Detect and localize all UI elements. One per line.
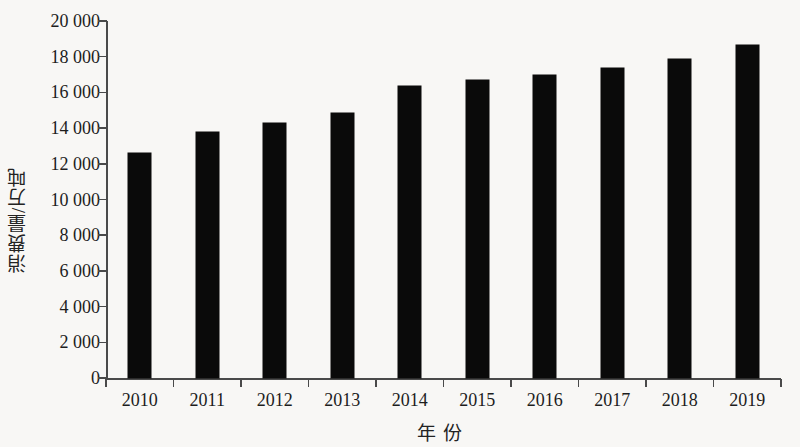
x-axis-tick xyxy=(173,379,175,387)
y-axis-tick-label: 16 000 xyxy=(34,83,100,101)
bar-chart: 消费量/万吨 02 0004 0006 0008 00010 00012 000… xyxy=(0,0,800,447)
bar xyxy=(331,113,354,378)
bar xyxy=(398,86,421,378)
y-axis-tick-label: 6 000 xyxy=(34,262,100,280)
y-axis-tick-label: 18 000 xyxy=(34,48,100,66)
bar xyxy=(196,132,219,378)
y-axis-tick-label: 0 xyxy=(34,369,100,387)
x-axis-tick-label: 2019 xyxy=(707,390,787,410)
x-axis-tick xyxy=(240,379,242,387)
x-axis-tick xyxy=(645,379,647,387)
y-axis-tick-label: 4 000 xyxy=(34,298,100,316)
y-axis-tick-label: 14 000 xyxy=(34,119,100,137)
bar xyxy=(533,75,556,378)
x-axis-title: 年 份 xyxy=(0,418,800,445)
y-axis-title: 消费量/万吨 xyxy=(2,100,34,340)
x-axis-tick xyxy=(375,379,377,387)
x-axis-tick xyxy=(713,379,715,387)
y-axis-tick-label: 12 000 xyxy=(34,155,100,173)
x-axis-title-text: 年 份 xyxy=(417,418,463,445)
bar xyxy=(668,59,691,379)
y-axis-tick-labels: 02 0004 0006 0008 00010 00012 00014 0001… xyxy=(34,0,100,447)
x-axis-tick xyxy=(510,379,512,387)
y-axis-tick-label: 10 000 xyxy=(34,191,100,209)
y-axis-tick-label: 20 000 xyxy=(34,12,100,30)
y-axis-tick-label: 8 000 xyxy=(34,226,100,244)
bar xyxy=(736,45,759,378)
y-axis-tick-label: 2 000 xyxy=(34,333,100,351)
bar xyxy=(128,153,151,378)
bar xyxy=(466,80,489,378)
bar xyxy=(263,123,286,378)
x-axis-tick xyxy=(308,379,310,387)
x-axis-tick xyxy=(780,379,782,387)
x-axis-tick xyxy=(578,379,580,387)
x-axis-tick xyxy=(105,379,107,387)
x-axis-tick xyxy=(443,379,445,387)
bar xyxy=(601,68,624,378)
plot-area xyxy=(106,21,781,378)
